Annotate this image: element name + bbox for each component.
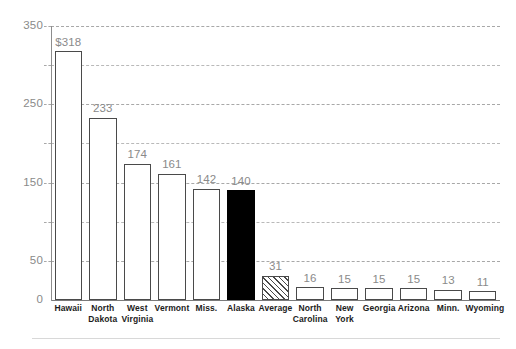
y-tick-label-0: 0	[36, 293, 43, 305]
category-label-line: New	[327, 303, 362, 314]
bar[interactable]	[55, 51, 83, 300]
bar[interactable]	[262, 276, 290, 300]
gridline-0	[51, 300, 500, 301]
bar[interactable]	[400, 288, 428, 300]
y-tick-label-50: 50	[30, 254, 43, 266]
category-label-line: Virginia	[120, 314, 155, 325]
category-label-line: Dakota	[86, 314, 121, 325]
category-label-line: North	[86, 303, 121, 314]
bar-chart: 050150250350 $31823317416114214031161515…	[0, 0, 516, 349]
category-label-line: Arizona	[396, 303, 431, 314]
category-label-line: Hawaii	[51, 303, 86, 314]
bar-series: $31823317416114214031161515151311	[51, 26, 500, 300]
bar-value-label: 13	[442, 275, 455, 287]
bar[interactable]	[227, 190, 255, 300]
bar-value-label: 16	[304, 273, 317, 285]
category-label: Hawaii	[51, 303, 86, 314]
category-label: Vermont	[155, 303, 190, 314]
category-label: NorthDakota	[86, 303, 121, 324]
y-tick-dash-200	[44, 143, 51, 144]
category-label-line: Miss.	[189, 303, 224, 314]
bar-group[interactable]: 16	[296, 273, 324, 300]
bar-group[interactable]: 142	[193, 174, 221, 300]
bar-group[interactable]: 13	[434, 275, 462, 300]
bar-value-label: 233	[93, 103, 113, 115]
bar-group[interactable]: 161	[158, 159, 186, 300]
bar[interactable]	[296, 287, 324, 300]
bar[interactable]	[89, 118, 117, 300]
category-label: NorthCarolina	[293, 303, 328, 324]
category-label-line: North	[293, 303, 328, 314]
bar-value-label: 161	[162, 159, 182, 171]
category-label-line: West	[120, 303, 155, 314]
y-axis-tick-labels: 050150250350	[0, 0, 43, 349]
bar-group[interactable]: 140	[227, 176, 255, 300]
y-tick-dash-300	[44, 65, 51, 66]
y-tick-dash-250	[44, 104, 51, 105]
bar[interactable]	[193, 189, 221, 300]
category-label-line: Carolina	[293, 314, 328, 325]
bar-group[interactable]: 15	[365, 274, 393, 300]
category-label-line: Georgia	[362, 303, 397, 314]
category-label-line: Wyoming	[465, 303, 500, 314]
bar-group[interactable]: 11	[469, 277, 497, 300]
y-tick-dash-100	[44, 222, 51, 223]
bar-group[interactable]: 174	[124, 149, 152, 300]
bar-value-label: 11	[477, 277, 489, 289]
bar-group[interactable]: 233	[89, 103, 117, 300]
category-label: WestVirginia	[120, 303, 155, 324]
y-tick-dash-350	[44, 26, 51, 27]
bar-value-label: 31	[269, 261, 282, 273]
category-label: NewYork	[327, 303, 362, 324]
bar-value-label: $318	[55, 37, 81, 49]
category-label: Georgia	[362, 303, 397, 314]
category-label-line: Alaska	[224, 303, 259, 314]
category-label: Arizona	[396, 303, 431, 314]
category-label: Alaska	[224, 303, 259, 314]
bar-group[interactable]: $318	[55, 37, 83, 300]
category-label: Minn.	[431, 303, 466, 314]
bar[interactable]	[469, 291, 497, 300]
y-tick-label-250: 250	[23, 97, 43, 109]
category-label-line: York	[327, 314, 362, 325]
bar-group[interactable]: 15	[400, 274, 428, 300]
bar-value-label: 140	[231, 176, 251, 188]
bar[interactable]	[158, 174, 186, 300]
category-label: Average	[258, 303, 293, 314]
y-tick-dash-50	[44, 261, 51, 262]
bar-value-label: 15	[373, 274, 386, 286]
category-label-line: Vermont	[155, 303, 190, 314]
y-tick-dash-150	[44, 183, 51, 184]
category-label: Wyoming	[465, 303, 500, 314]
x-axis-category-labels: HawaiiNorthDakotaWestVirginiaVermontMiss…	[51, 303, 500, 337]
bar-group[interactable]: 15	[331, 274, 359, 300]
y-tick-label-150: 150	[23, 176, 43, 188]
bar[interactable]	[434, 290, 462, 300]
category-label-line: Average	[258, 303, 293, 314]
bar[interactable]	[124, 164, 152, 300]
bar-value-label: 174	[128, 149, 148, 161]
bottom-divider	[32, 338, 500, 339]
bar-value-label: 15	[407, 274, 420, 286]
category-label: Miss.	[189, 303, 224, 314]
bar-value-label: 142	[197, 174, 217, 186]
category-label-line: Minn.	[431, 303, 466, 314]
bar-value-label: 15	[338, 274, 351, 286]
bar[interactable]	[331, 288, 359, 300]
bar[interactable]	[365, 288, 393, 300]
y-tick-label-350: 350	[23, 19, 43, 31]
bar-group[interactable]: 31	[262, 261, 290, 300]
